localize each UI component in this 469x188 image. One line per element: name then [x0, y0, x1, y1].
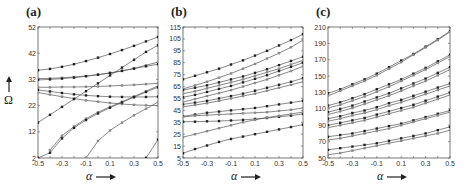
data-point: [376, 74, 378, 76]
data-point: [157, 104, 159, 106]
data-point: [145, 83, 147, 85]
data-point: [242, 135, 244, 137]
data-point: [327, 120, 329, 122]
data-point: [254, 90, 256, 92]
data-point: [182, 92, 184, 94]
data-point: [327, 118, 329, 120]
data-point: [157, 63, 159, 65]
data-point: [449, 111, 451, 113]
data-point: [424, 80, 426, 82]
data-point: [266, 131, 268, 133]
data-point: [449, 66, 451, 68]
data-point: [97, 85, 99, 87]
data-point: [339, 124, 341, 126]
data-point: [85, 90, 87, 92]
data-point: [400, 90, 402, 92]
data-point: [290, 101, 292, 103]
data-point: [327, 113, 329, 115]
data-point: [327, 107, 329, 109]
data-point: [121, 49, 123, 51]
x-tick-label: -0.3: [201, 160, 213, 167]
series-line: [327, 54, 451, 107]
data-point: [376, 106, 378, 108]
data-point: [206, 95, 208, 97]
y-tick-label: 130: [314, 89, 326, 96]
data-point: [388, 125, 390, 127]
y-tick-label: 95: [173, 47, 181, 54]
data-point: [230, 85, 232, 87]
data-point: [351, 119, 353, 121]
data-point: [363, 95, 365, 97]
data-point: [37, 157, 39, 159]
data-point: [388, 110, 390, 112]
data-point: [61, 66, 63, 68]
data-point: [302, 107, 304, 109]
data-point: [133, 45, 135, 47]
data-point: [278, 64, 280, 66]
x-tick-label: -0.1: [225, 160, 237, 167]
data-point: [412, 54, 414, 56]
data-point: [302, 81, 304, 83]
data-point: [449, 129, 451, 131]
data-point: [49, 68, 51, 70]
y-tick-label: 105: [169, 35, 181, 42]
data-point: [230, 78, 232, 80]
panel-c: (c)507090110130150170190210-0.5-0.3-0.10…: [314, 4, 455, 183]
x-tick-label: -0.3: [56, 160, 68, 167]
data-point: [133, 96, 135, 98]
data-point: [376, 116, 378, 118]
data-point: [218, 92, 220, 94]
data-point: [437, 39, 439, 41]
data-point: [351, 99, 353, 101]
panel-b: (b)5152535455565758595105115-0.5-0.3-0.1…: [169, 4, 308, 183]
panel-a: (a)21222324252-0.5-0.3-0.10.10.30.5αΩ: [4, 4, 163, 183]
x-axis-label: α: [377, 169, 384, 183]
data-point: [449, 31, 451, 33]
data-point: [61, 106, 63, 108]
x-tick-label: 0.5: [153, 160, 163, 167]
x-tick-label: -0.1: [80, 160, 92, 167]
data-point: [206, 112, 208, 114]
data-point: [266, 68, 268, 70]
data-point: [302, 33, 304, 35]
panel-label: (c): [316, 4, 330, 19]
data-point: [194, 120, 196, 122]
data-point: [194, 133, 196, 135]
data-point: [218, 127, 220, 129]
data-point: [206, 144, 208, 146]
data-point: [412, 137, 414, 139]
data-point: [388, 142, 390, 144]
data-point: [121, 70, 123, 72]
data-point: [97, 140, 99, 142]
data-point: [376, 142, 378, 144]
data-point: [85, 119, 87, 121]
data-point: [194, 115, 196, 117]
data-point: [327, 111, 329, 113]
data-point: [266, 78, 268, 80]
y-tick-label: 85: [173, 59, 181, 66]
data-point: [437, 72, 439, 74]
data-point: [182, 136, 184, 138]
data-point: [218, 81, 220, 83]
data-point: [121, 96, 123, 98]
x-tick-label: 0.3: [421, 160, 431, 167]
y-tick-label: 52: [28, 24, 36, 31]
data-point: [290, 66, 292, 68]
y-axis-label: Ω: [4, 93, 13, 107]
y-tick-label: 22: [28, 102, 36, 109]
x-tick-label: -0.1: [371, 160, 383, 167]
data-point: [37, 121, 39, 123]
data-point: [388, 68, 390, 70]
data-point: [218, 141, 220, 143]
data-point: [400, 109, 402, 111]
data-point: [400, 137, 402, 139]
data-point: [351, 145, 353, 147]
data-point: [97, 56, 99, 58]
data-point: [302, 39, 304, 41]
data-point: [182, 96, 184, 98]
data-point: [278, 128, 280, 130]
data-point: [206, 130, 208, 132]
data-point: [424, 77, 426, 79]
data-point: [437, 98, 439, 100]
data-point: [376, 108, 378, 110]
